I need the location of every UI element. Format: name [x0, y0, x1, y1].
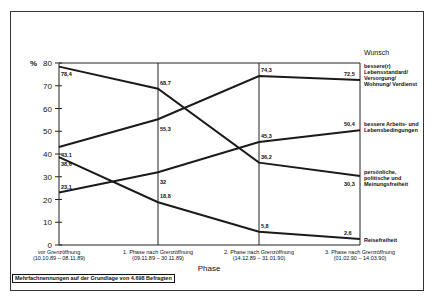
legend-series-meinungsfreiheit: persönliche, politische und Meinungsfrei… — [364, 169, 414, 187]
data-label: 2,6 — [344, 230, 352, 236]
y-tick-label: 40 — [43, 150, 52, 159]
data-label: 68,7 — [160, 80, 171, 86]
x-category-dates: (09.11.89 – 30.11.89) — [132, 255, 184, 261]
data-label: 5,8 — [261, 223, 269, 229]
legend-series-lebensstandard: bessere(r) Lebensstandard/ Versorgung/ W… — [364, 63, 422, 87]
legend-title: Wunsch — [364, 50, 389, 56]
data-label: 18,8 — [160, 193, 171, 199]
legend-series-reisefreiheit: Reisefreiheit — [364, 237, 397, 243]
data-label: 72,5 — [344, 71, 355, 77]
data-label: 38,6 — [61, 161, 72, 167]
data-label: 50,4 — [344, 121, 356, 127]
y-unit-label: % — [30, 59, 37, 68]
y-tick-label: 80 — [43, 59, 52, 68]
data-label: 32 — [160, 179, 166, 185]
data-label: 74,3 — [261, 67, 272, 73]
y-tick-label: 10 — [43, 218, 52, 227]
line-chart: 01020304050607080%vor Grenzöffnung(10.10… — [0, 0, 435, 304]
data-label: 36,2 — [261, 154, 272, 160]
x-axis-title: Phase — [198, 264, 221, 273]
x-category-dates: (14.12.89 – 31.01.90) — [233, 255, 286, 261]
footnote: Mehrfachnennungen auf der Grundlage von … — [12, 274, 175, 283]
data-label: 78,4 — [61, 71, 73, 77]
y-tick-label: 70 — [43, 82, 52, 91]
x-category-dates: (10.10.89 – 08.11.89) — [33, 255, 85, 261]
y-tick-label: 20 — [43, 196, 52, 205]
y-tick-label: 30 — [43, 173, 52, 182]
y-tick-label: 50 — [43, 127, 52, 136]
x-category-dates: (01.02.90 – 14.03.90) — [334, 255, 387, 261]
series-line — [59, 130, 360, 192]
data-label: 43,1 — [61, 152, 72, 158]
data-label: 23,1 — [61, 184, 72, 190]
data-label: 45,3 — [261, 133, 272, 139]
y-tick-label: 60 — [43, 105, 52, 114]
data-label: 30,3 — [344, 181, 355, 187]
series-line — [59, 67, 360, 176]
legend-series-arbeitsbedingungen: bessere Arbeits- und Lebensbedingungen — [364, 121, 426, 133]
data-label: 55,3 — [160, 126, 171, 132]
